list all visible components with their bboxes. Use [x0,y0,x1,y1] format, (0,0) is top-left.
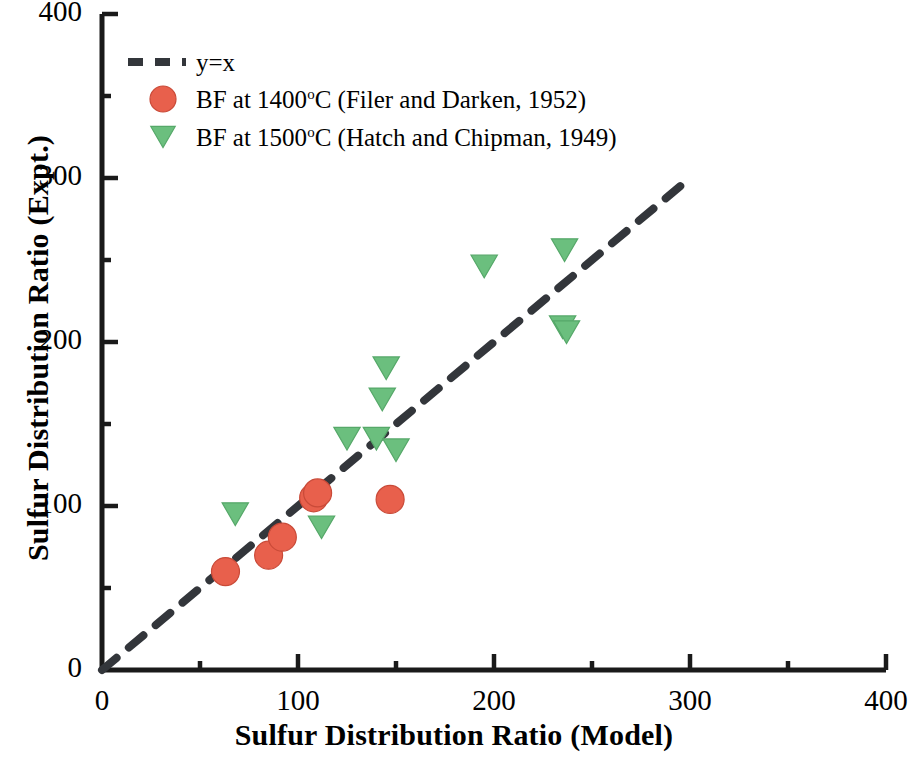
legend-circle-icon [150,86,176,112]
legend-label-bf-1500-pre: BF at 1500 [196,124,307,151]
data-point-circle-1-0 [211,558,239,586]
data-point-triangle-2-1 [308,516,334,539]
data-point-triangle-2-7 [471,255,497,278]
data-point-triangle-2-4 [369,388,395,411]
legend-triangle-icon [151,126,175,147]
data-point-triangle-2-8 [551,239,577,262]
identity-line [102,178,690,670]
plot-area-svg [0,0,908,766]
y-axis-title-container: Sulfur Distribution Ratio (Expt.) [21,18,61,678]
data-point-circle-1-2 [268,523,296,551]
legend-label-bf-1500: BF at 1500oC (Hatch and Chipman, 1949) [196,124,617,152]
legend-label-identity: y=x [196,49,235,77]
data-point-circle-1-5 [376,485,404,513]
legend-label-bf-1400: BF at 1400oC (Filer and Darken, 1952) [196,86,586,114]
legend-label-bf-1500-post: C (Hatch and Chipman, 1949) [315,124,617,151]
x-tick-label-4: 400 [846,684,908,717]
x-axis-title: Sulfur Distribution Ratio (Model) [0,718,908,752]
data-point-triangle-2-10 [553,321,579,344]
legend-markers [128,62,186,148]
x-tick-label-0: 0 [62,684,142,717]
data-point-triangle-2-0 [222,503,248,526]
legend-label-bf-1400-pre: BF at 1400 [196,86,307,113]
x-tick-label-1: 100 [258,684,338,717]
data-point-triangle-2-5 [373,357,399,380]
x-tick-label-3: 300 [650,684,730,717]
x-tick-label-2: 200 [454,684,534,717]
identity-line-path [102,178,690,670]
scatter-chart-figure: 0 100 200 300 400 0 100 200 300 400 Sulf… [0,0,908,766]
data-point-circle-1-4 [304,479,332,507]
legend-label-bf-1400-degree: o [307,86,315,102]
data-point-triangle-2-2 [334,427,360,450]
legend-label-bf-1500-degree: o [307,124,315,140]
legend-label-bf-1400-post: C (Filer and Darken, 1952) [315,86,586,113]
y-axis-title: Sulfur Distribution Ratio (Expt.) [21,135,54,561]
data-point-triangle-2-6 [383,439,409,462]
